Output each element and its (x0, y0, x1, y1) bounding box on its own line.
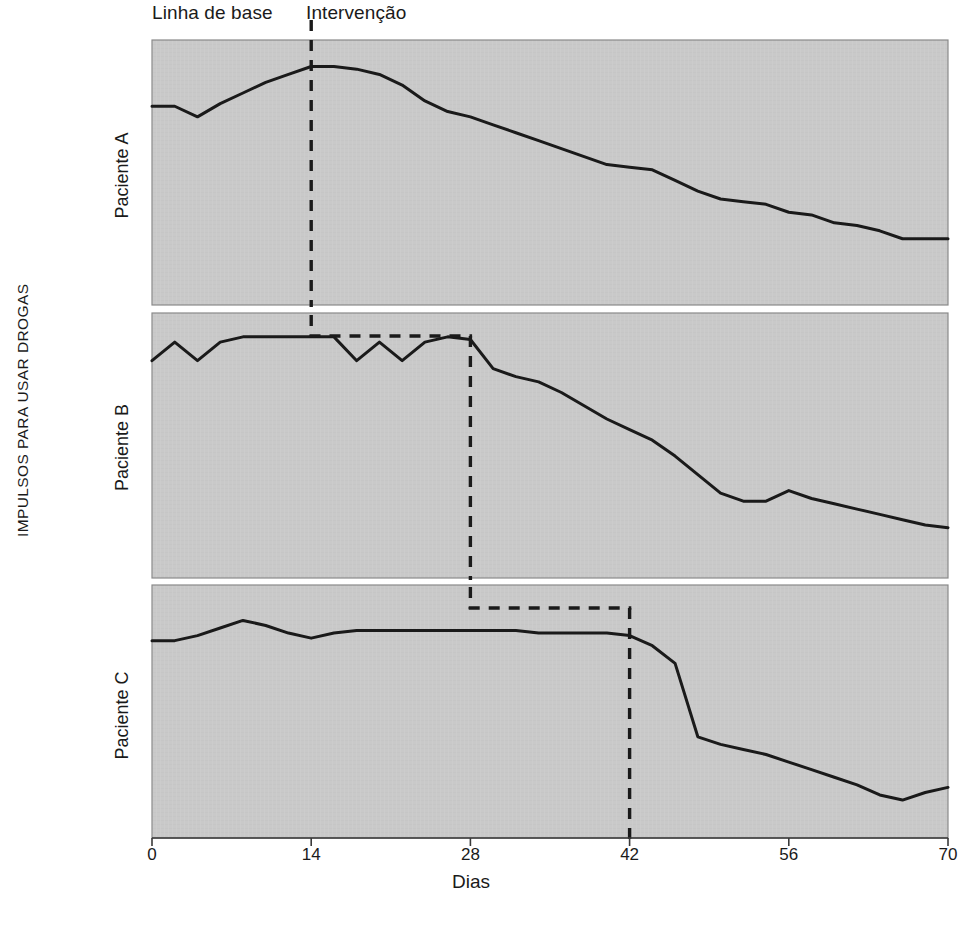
plot-canvas (0, 0, 980, 927)
x-tick-label-56: 56 (769, 845, 809, 865)
multiple-baseline-figure: Linha de base Intervenção IMPULSOS PARA … (0, 0, 980, 927)
x-tick-label-0: 0 (132, 845, 172, 865)
panel-2 (152, 313, 948, 578)
panel-background-2 (152, 313, 948, 578)
x-tick-label-28: 28 (450, 845, 490, 865)
x-tick-label-42: 42 (610, 845, 650, 865)
x-tick-label-70: 70 (928, 845, 968, 865)
panel-1 (152, 40, 948, 305)
x-axis-label: Dias (452, 871, 490, 893)
panel-3 (152, 585, 948, 838)
x-tick-label-14: 14 (291, 845, 331, 865)
panel-background-3 (152, 585, 948, 838)
